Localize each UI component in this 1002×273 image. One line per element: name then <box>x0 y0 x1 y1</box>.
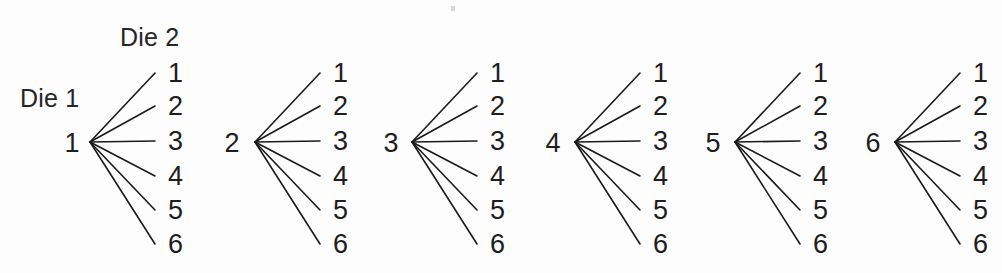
tree-branch-line <box>735 141 800 142</box>
die2-value-label: 3 <box>490 126 505 156</box>
die2-value-label: 1 <box>973 58 988 88</box>
die2-value-label: 5 <box>653 195 668 225</box>
tree-cluster: 2123456 <box>224 58 348 259</box>
die2-value-label: 5 <box>973 195 988 225</box>
tree-branch-line <box>90 142 155 176</box>
tree-branch-line <box>90 106 155 142</box>
die2-value-label: 1 <box>333 58 348 88</box>
tree-cluster: 4123456 <box>545 58 668 259</box>
die2-value-label: 1 <box>813 58 828 88</box>
die2-value-label: 5 <box>333 195 348 225</box>
tree-cluster: 5123456 <box>705 58 828 259</box>
tree-branch-line <box>735 142 800 244</box>
die2-value-label: 2 <box>490 91 505 121</box>
die2-value-label: 6 <box>490 229 505 259</box>
die2-heading: Die 2 <box>120 23 179 51</box>
die2-value-label: 3 <box>168 126 183 156</box>
tree-branch-line <box>255 142 320 210</box>
tree-branch-line <box>895 73 960 142</box>
tree-branch-line <box>895 106 960 142</box>
die1-value-label: 2 <box>224 128 239 158</box>
tree-branch-line <box>255 73 320 142</box>
tree-branch-line <box>412 142 477 176</box>
tree-branch-line <box>895 142 960 176</box>
tree-branch-line <box>255 106 320 142</box>
tree-branch-line <box>575 73 640 142</box>
die2-value-label: 6 <box>813 229 828 259</box>
die2-value-label: 4 <box>653 161 668 191</box>
die2-value-label: 4 <box>490 161 505 191</box>
die2-value-label: 4 <box>333 161 348 191</box>
tree-branch-line <box>575 142 640 210</box>
die2-value-label: 3 <box>813 126 828 156</box>
die2-value-label: 6 <box>333 229 348 259</box>
tree-branch-line <box>735 106 800 142</box>
tree-branch-line <box>412 73 477 142</box>
die2-value-label: 3 <box>973 126 988 156</box>
tree-branch-line <box>412 106 477 142</box>
tree-branch-line <box>575 142 640 176</box>
tree-branch-line <box>575 141 640 142</box>
die2-value-label: 4 <box>168 161 183 191</box>
tree-branch-line <box>735 73 800 142</box>
tree-cluster: 1123456 <box>64 58 183 259</box>
die2-value-label: 5 <box>168 195 183 225</box>
die2-value-label: 2 <box>653 91 668 121</box>
tree-branch-line <box>895 141 960 142</box>
tree-branch-line <box>90 73 155 142</box>
tree-branch-line <box>90 142 155 244</box>
tree-branch-line <box>412 142 477 210</box>
tree-branch-line <box>90 142 155 210</box>
die2-value-label: 6 <box>168 229 183 259</box>
dice-tree-diagram: Die 2 Die 1 1123456212345631234564123456… <box>0 0 1002 273</box>
tree-branch-line <box>255 142 320 176</box>
die1-value-label: 1 <box>64 128 79 158</box>
tree-cluster-group: 1123456212345631234564123456512345661234… <box>64 58 988 259</box>
die2-value-label: 5 <box>490 195 505 225</box>
tree-branch-line <box>575 106 640 142</box>
die1-value-label: 6 <box>865 128 880 158</box>
die2-value-label: 1 <box>653 58 668 88</box>
die1-heading: Die 1 <box>20 84 79 112</box>
die1-value-label: 3 <box>383 128 398 158</box>
die2-value-label: 2 <box>168 91 183 121</box>
tree-branch-line <box>735 142 800 210</box>
tree-branch-line <box>90 141 155 142</box>
die1-value-label: 4 <box>545 128 560 158</box>
tree-cluster: 3123456 <box>383 58 505 259</box>
scan-speckle-artifact <box>451 6 455 11</box>
die2-value-label: 6 <box>653 229 668 259</box>
die2-value-label: 4 <box>813 161 828 191</box>
tree-branch-line <box>412 141 477 142</box>
die2-value-label: 2 <box>333 91 348 121</box>
tree-branch-line <box>735 142 800 176</box>
tree-diagram-canvas: Die 2 Die 1 1123456212345631234564123456… <box>0 0 1002 273</box>
tree-branch-line <box>255 142 320 244</box>
die1-value-label: 5 <box>705 128 720 158</box>
die2-value-label: 4 <box>973 161 988 191</box>
die2-value-label: 6 <box>973 229 988 259</box>
die2-value-label: 1 <box>490 58 505 88</box>
tree-branch-line <box>575 142 640 244</box>
die2-value-label: 2 <box>973 91 988 121</box>
tree-branch-line <box>895 142 960 210</box>
tree-cluster: 6123456 <box>865 58 988 259</box>
die2-value-label: 2 <box>813 91 828 121</box>
die2-value-label: 3 <box>333 126 348 156</box>
tree-branch-line <box>255 141 320 142</box>
die2-value-label: 1 <box>168 58 183 88</box>
tree-branch-line <box>412 142 477 244</box>
die2-value-label: 3 <box>653 126 668 156</box>
die2-value-label: 5 <box>813 195 828 225</box>
tree-branch-line <box>895 142 960 244</box>
